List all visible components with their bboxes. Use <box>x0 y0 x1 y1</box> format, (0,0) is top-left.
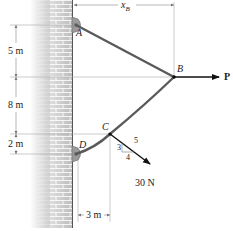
force-30N-arrow <box>110 134 150 164</box>
dim-3m: 3 m <box>86 210 101 220</box>
label-P: P <box>224 72 230 82</box>
dim-8m: 8 m <box>8 100 23 110</box>
statics-diagram: A B C D P 5 m 8 m 2 m 3 m xB 3 4 5 30 N <box>0 0 233 231</box>
force-30N-label: 30 N <box>135 178 155 188</box>
slope-rise-3: 3 <box>117 144 121 152</box>
dim-5m: 5 m <box>8 46 23 56</box>
label-B: B <box>177 64 183 74</box>
diagram-canvas <box>0 0 233 231</box>
slope-hyp-5: 5 <box>134 137 138 145</box>
cable <box>76 25 174 154</box>
brick-wall <box>30 0 73 228</box>
label-D: D <box>79 140 86 150</box>
dim-2m: 2 m <box>8 139 23 149</box>
label-A: A <box>76 28 82 38</box>
label-C: C <box>102 122 109 132</box>
dim-xB: xB <box>121 0 130 13</box>
slope-run-4: 4 <box>126 154 130 162</box>
